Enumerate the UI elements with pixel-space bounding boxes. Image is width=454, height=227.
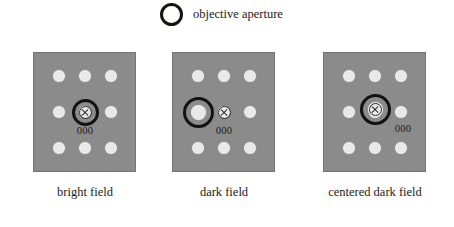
diffraction-spot <box>244 142 256 154</box>
diffraction-spot <box>395 142 407 154</box>
diffraction-spot <box>343 142 355 154</box>
caption-dark-field: dark field <box>200 186 248 199</box>
transmitted-beam-cross-icon <box>218 106 231 119</box>
diffraction-spot <box>343 106 355 118</box>
diffraction-spot <box>343 70 355 82</box>
objective-aperture-ring-icon <box>160 3 183 26</box>
panel-centered-dark-field: 000 <box>323 52 426 172</box>
diffraction-spot <box>244 70 256 82</box>
diffraction-spot <box>79 70 91 82</box>
diffraction-pattern-bright-field: 000 <box>33 52 136 172</box>
diffraction-spot <box>53 142 65 154</box>
diffraction-spot <box>105 142 117 154</box>
diffraction-pattern-centered-dark-field: 000 <box>323 52 426 172</box>
objective-aperture-ring-icon <box>72 99 99 126</box>
diffraction-spot <box>244 106 256 118</box>
diffraction-spot <box>395 106 407 118</box>
transmitted-beam-label: 000 <box>216 126 233 137</box>
panel-bright-field: 000 <box>33 52 136 172</box>
caption-bright-field: bright field <box>57 186 113 199</box>
panel-dark-field: 000 <box>172 52 275 172</box>
diffraction-spot <box>79 142 91 154</box>
diffraction-spot <box>369 70 381 82</box>
transmitted-beam-label: 000 <box>77 126 94 137</box>
objective-aperture-ring-icon <box>360 94 391 125</box>
diffraction-spot <box>105 106 117 118</box>
diffraction-spot <box>53 70 65 82</box>
transmitted-beam-label: 000 <box>395 124 412 135</box>
diffraction-spot <box>369 142 381 154</box>
legend-label: objective aperture <box>193 8 283 21</box>
diffraction-spot <box>218 70 230 82</box>
diffraction-spot <box>218 142 230 154</box>
diffraction-spot <box>192 142 204 154</box>
diffraction-spot <box>192 70 204 82</box>
diffraction-spot <box>53 106 65 118</box>
diffraction-spot <box>105 70 117 82</box>
diffraction-spot <box>395 70 407 82</box>
diffraction-pattern-dark-field: 000 <box>172 52 275 172</box>
caption-centered-dark-field: centered dark field <box>328 186 422 199</box>
diagram-canvas: objective aperture 000 000 000 bright fi… <box>0 0 454 227</box>
legend: objective aperture <box>160 0 283 28</box>
objective-aperture-ring-icon <box>183 97 214 128</box>
